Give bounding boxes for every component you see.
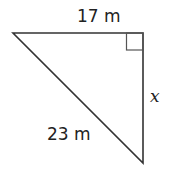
diagram-canvas: 17 m x 23 m (0, 0, 171, 170)
right-side-label: x (150, 86, 160, 106)
right-angle-marker (127, 33, 144, 50)
hypotenuse-label: 23 m (47, 124, 91, 144)
top-side-label: 17 m (77, 6, 121, 26)
